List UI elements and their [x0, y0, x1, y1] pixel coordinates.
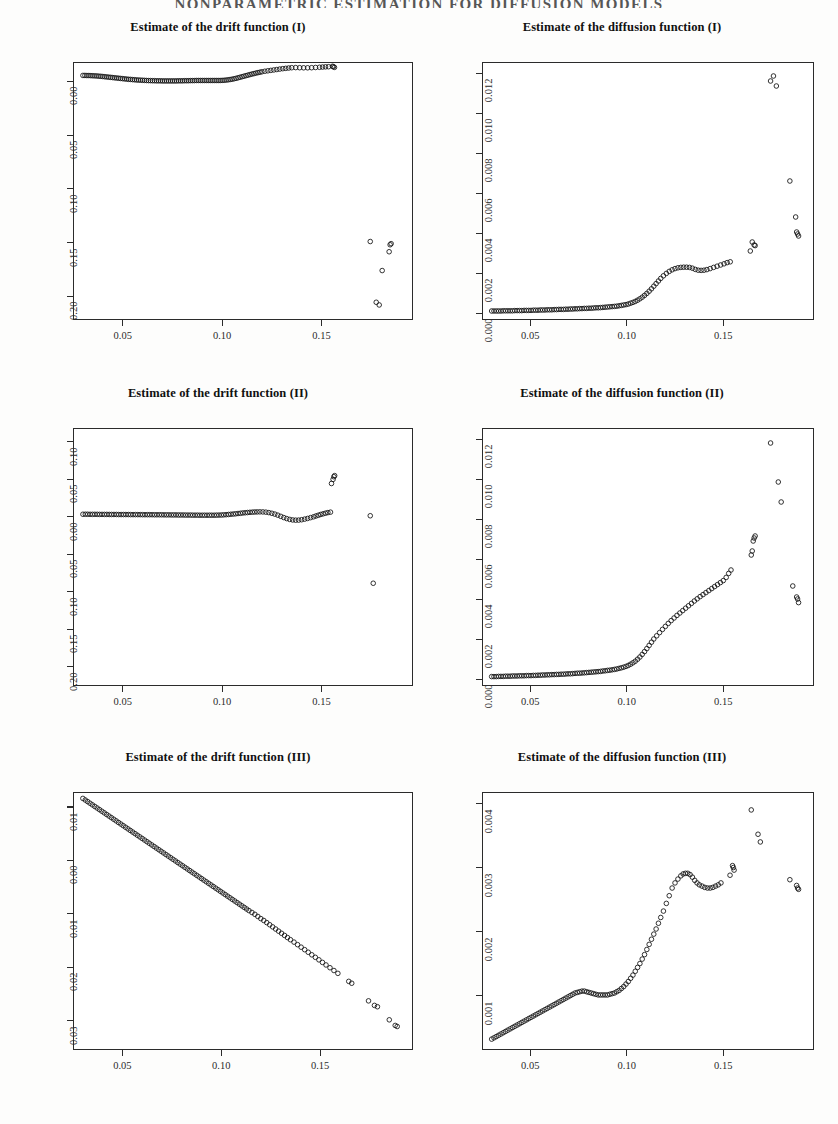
panel-diffusion-1: Estimate of the diffusion function (I) 0… [420, 20, 824, 368]
x-axis-tick [626, 320, 627, 326]
x-axis-tick [122, 320, 123, 326]
x-axis-label: 0.15 [311, 1060, 329, 1071]
x-axis-tick [222, 686, 223, 692]
y-axis-label: 0.05 [68, 485, 79, 503]
y-axis-tick [476, 273, 482, 274]
x-axis-label: 0.10 [212, 1060, 230, 1071]
panel-title: Estimate of the diffusion function (II) [420, 386, 824, 401]
y-axis-label: 0.008 [483, 525, 494, 549]
x-axis-label: 0.15 [714, 1060, 732, 1071]
y-axis-label: 0.10 [68, 597, 79, 615]
scatter-points [73, 62, 413, 320]
y-axis-tick [476, 519, 482, 520]
x-axis-tick [626, 1050, 627, 1056]
y-axis-tick [476, 803, 482, 804]
x-axis-tick [530, 320, 531, 326]
y-axis-tick [67, 296, 73, 297]
y-axis-label: 0.001 [483, 1001, 494, 1025]
y-axis-tick [476, 233, 482, 234]
y-axis-tick [67, 188, 73, 189]
paper-page: NONPARAMETRIC ESTIMATION FOR DIFFUSION M… [0, 0, 838, 1124]
x-axis-label: 0.15 [714, 696, 732, 707]
y-axis-label: 0.15 [68, 635, 79, 653]
x-axis-tick [321, 686, 322, 692]
scatter-points [73, 428, 413, 686]
panel-title: Estimate of the drift function (I) [18, 20, 418, 35]
y-axis-label: 0.10 [68, 447, 79, 465]
y-axis-tick [476, 153, 482, 154]
y-axis-tick [476, 73, 482, 74]
y-axis-label: 0.02 [68, 973, 79, 991]
x-axis-label: 0.10 [213, 330, 231, 341]
panel-diffusion-2: Estimate of the diffusion function (II) … [420, 386, 824, 734]
y-axis-label: 0.000 [483, 685, 494, 709]
y-axis-label: 0.05 [68, 141, 79, 159]
y-axis-tick [476, 679, 482, 680]
y-axis-label: 0.004 [483, 809, 494, 833]
y-axis-tick [67, 967, 73, 968]
panel-drift-1: Estimate of the drift function (I) 0.000… [18, 20, 418, 368]
y-axis-tick [476, 995, 482, 996]
x-axis-tick [122, 1050, 123, 1056]
y-axis-tick [476, 313, 482, 314]
plot-area-diffusion-2: 0.0000.0020.0040.0060.0080.0100.0120.050… [482, 428, 814, 686]
y-axis-tick [67, 913, 73, 914]
y-axis-label: 0.006 [483, 565, 494, 589]
panel-title: Estimate of the diffusion function (III) [420, 750, 824, 765]
x-axis-tick [723, 1050, 724, 1056]
y-axis-label: 0.00 [68, 866, 79, 884]
y-axis-label: 0.05 [68, 560, 79, 578]
x-axis-tick [320, 1050, 321, 1056]
y-axis-tick [67, 554, 73, 555]
x-axis-label: 0.15 [312, 696, 330, 707]
y-axis-tick [67, 242, 73, 243]
y-axis-tick [67, 516, 73, 517]
x-axis-tick [530, 1050, 531, 1056]
y-axis-tick [67, 1020, 73, 1021]
x-axis-tick [723, 320, 724, 326]
y-axis-tick [67, 591, 73, 592]
x-axis-label: 0.10 [618, 696, 636, 707]
figure-grid: Estimate of the drift function (I) 0.000… [0, 14, 838, 1124]
y-axis-label: 0.010 [483, 485, 494, 509]
x-axis-label: 0.15 [714, 330, 732, 341]
scatter-points [482, 792, 814, 1050]
y-axis-tick [476, 867, 482, 868]
y-axis-label: 0.003 [483, 873, 494, 897]
y-axis-tick [67, 666, 73, 667]
y-axis-tick [476, 193, 482, 194]
y-axis-label: 0.012 [483, 445, 494, 469]
x-axis-label: 0.05 [114, 696, 132, 707]
panel-diffusion-3: Estimate of the diffusion function (III)… [420, 750, 824, 1102]
plot-area-diffusion-1: 0.0000.0020.0040.0060.0080.0100.0120.050… [482, 62, 814, 320]
y-axis-label: 0.010 [483, 119, 494, 143]
y-axis-label: 0.002 [483, 645, 494, 669]
y-axis-label: 0.004 [483, 239, 494, 263]
panel-title: Estimate of the drift function (III) [18, 750, 418, 765]
y-axis-tick [67, 806, 73, 807]
y-axis-tick [476, 931, 482, 932]
scatter-points [73, 792, 413, 1050]
y-axis-tick [476, 639, 482, 640]
x-axis-label: 0.05 [113, 1060, 131, 1071]
y-axis-label: 0.10 [68, 194, 79, 212]
x-axis-label: 0.05 [521, 1060, 539, 1071]
y-axis-tick [67, 81, 73, 82]
y-axis-label: 0.002 [483, 937, 494, 961]
x-axis-tick [122, 686, 123, 692]
y-axis-label: 0.000 [483, 319, 494, 343]
y-axis-tick [476, 479, 482, 480]
x-axis-label: 0.10 [618, 1060, 636, 1071]
x-axis-tick [723, 686, 724, 692]
y-axis-label: 0.006 [483, 199, 494, 223]
y-axis-tick [67, 860, 73, 861]
panel-drift-3: Estimate of the drift function (III) 0.0… [18, 750, 418, 1102]
plot-area-drift-2: 0.100.050.000.050.100.150.200.050.100.15 [73, 428, 413, 686]
y-axis-label: 0.15 [68, 248, 79, 266]
x-axis-tick [530, 686, 531, 692]
x-axis-label: 0.05 [521, 696, 539, 707]
panel-title: Estimate of the diffusion function (I) [420, 20, 824, 35]
scatter-points [482, 62, 814, 320]
plot-area-drift-3: 0.010.000.010.020.030.050.100.15 [73, 792, 413, 1050]
x-axis-label: 0.10 [213, 696, 231, 707]
